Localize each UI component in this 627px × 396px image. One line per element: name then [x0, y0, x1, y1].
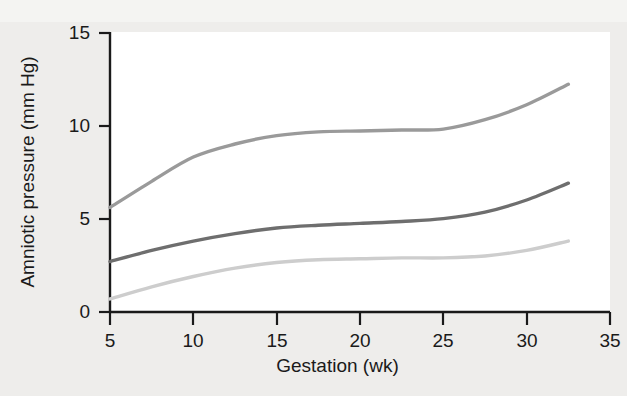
x-tick-label-20: 20 [340, 330, 380, 352]
y-axis-title: Amniotic pressure (mm Hg) [17, 56, 38, 287]
y-tick-label-10: 10 [50, 115, 90, 137]
series-line-lower [110, 241, 568, 299]
series-line-middle [110, 183, 568, 261]
y-tick-label-5: 5 [50, 208, 90, 230]
series-line-upper [110, 84, 568, 207]
x-axis-title: Gestation (wk) [24, 355, 627, 377]
x-tick-label-15: 15 [257, 330, 297, 352]
x-tick-label-10: 10 [173, 330, 213, 352]
x-tick-label-25: 25 [423, 330, 463, 352]
data-series-layer [110, 84, 568, 299]
x-tick-label-30: 30 [507, 330, 547, 352]
x-tick-label-35: 35 [590, 330, 627, 352]
y-tick-label-0: 0 [50, 301, 90, 323]
y-tick-label-15: 15 [50, 22, 90, 44]
chart-figure: Amniotic pressure (mm Hg) 15 10 5 0 5 10… [0, 0, 627, 396]
x-tick-label-5: 5 [90, 330, 130, 352]
